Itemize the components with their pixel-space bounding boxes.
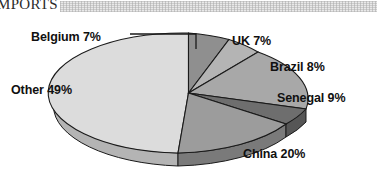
pie-label-other: Other 49% xyxy=(11,83,72,97)
chart-area: Belgium 7% UK 7% Brazil 8% Senegal 9% Ch… xyxy=(0,0,377,175)
pie-label-senegal: Senegal 9% xyxy=(277,91,345,105)
pie-label-belgium: Belgium 7% xyxy=(31,30,101,44)
pie-chart-figure: MPORTS xyxy=(0,0,377,175)
pie-label-brazil: Brazil 8% xyxy=(270,60,325,74)
pie-label-china: China 20% xyxy=(243,147,305,161)
pie-label-uk: UK 7% xyxy=(232,34,271,48)
